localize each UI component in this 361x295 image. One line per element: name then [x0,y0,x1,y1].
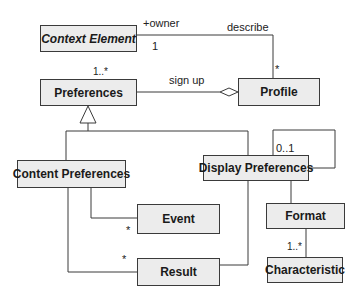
class-profile: Profile [238,78,320,106]
profile-multiplicity: * [275,64,279,75]
result-multiplicity: * [122,254,126,265]
class-name: Profile [260,85,297,99]
characteristic-multiplicity: 1..* [287,242,302,252]
class-name: Display Preferences [199,161,314,175]
class-name: Content Preferences [13,167,130,181]
class-name: Characteristic [265,263,345,277]
class-format: Format [266,203,345,229]
aggregation-diamond [220,88,238,96]
class-name: Result [160,265,197,279]
event-association-line [91,188,137,218]
class-event: Event [137,204,220,234]
class-name: Context Element [41,32,136,46]
class-content-preferences: Content Preferences [17,160,126,188]
class-name: Format [285,209,326,223]
event-multiplicity: * [126,225,130,236]
class-preferences: Preferences [40,79,137,106]
sign-up-label: sign up [169,75,204,86]
preferences-multiplicity: 1..* [93,67,108,77]
generalization-triangle [80,106,96,123]
class-context-element: Context Element [40,25,137,52]
owner-role-label: +owner [143,18,179,29]
class-name: Preferences [54,86,123,100]
context-multiplicity: 1 [152,41,158,52]
class-characteristic: Characteristic [267,257,343,283]
display-result-association-line [220,180,248,265]
describe-label: describe [227,22,269,33]
class-result: Result [137,258,220,286]
class-name: Event [162,212,195,226]
self-multiplicity: 0..1 [276,143,294,154]
class-display-preferences: Display Preferences [203,155,309,181]
